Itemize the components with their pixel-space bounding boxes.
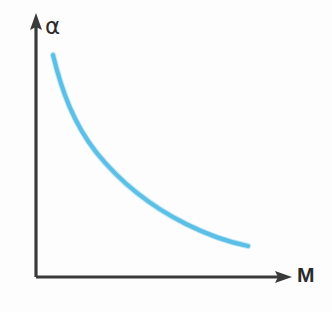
figure-container: α M: [0, 0, 332, 312]
y-axis-label: α: [45, 15, 60, 38]
decay-curve: [53, 55, 248, 246]
decay-curve-halo: [53, 55, 248, 246]
plot-canvas: [0, 0, 332, 312]
x-axis-label: M: [297, 264, 315, 285]
